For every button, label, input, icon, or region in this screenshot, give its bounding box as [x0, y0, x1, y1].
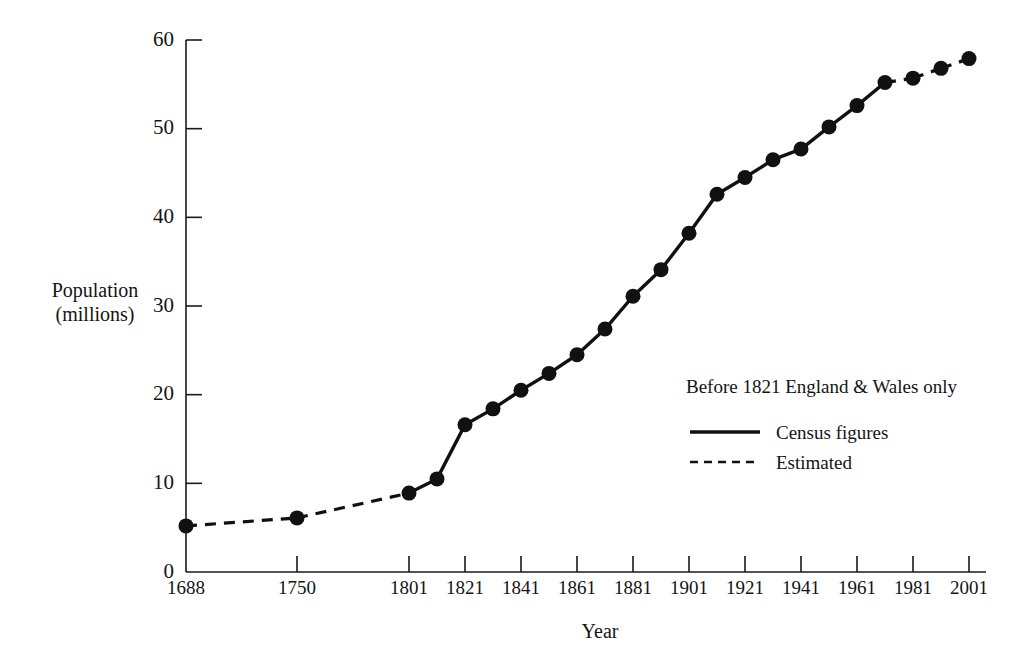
y-axis-title-line-2: (millions)	[56, 303, 135, 326]
data-point-marker	[682, 226, 697, 241]
x-tick-label: 2001	[950, 577, 988, 598]
y-tick-label: 60	[153, 27, 174, 51]
legend-label-estimated: Estimated	[776, 452, 852, 473]
x-tick-label: 1821	[446, 577, 484, 598]
data-point-marker	[710, 187, 725, 202]
series-segment-dashed	[297, 493, 409, 518]
series-marker-group	[179, 51, 977, 533]
chart-legend: Before 1821 England & Wales only Census …	[686, 376, 957, 473]
data-point-marker	[766, 152, 781, 167]
data-point-marker	[626, 289, 641, 304]
data-point-marker	[906, 71, 921, 86]
data-point-marker	[570, 347, 585, 362]
x-tick-label: 1981	[894, 577, 932, 598]
legend-annotation: Before 1821 England & Wales only	[686, 376, 957, 397]
x-tick-label: 1841	[502, 577, 540, 598]
data-point-marker	[738, 170, 753, 185]
data-point-marker	[794, 142, 809, 157]
data-point-marker	[654, 262, 669, 277]
data-point-marker	[934, 61, 949, 76]
x-tick-label: 1901	[670, 577, 708, 598]
axes	[186, 40, 986, 572]
data-point-marker	[598, 322, 613, 337]
data-point-marker	[822, 119, 837, 134]
x-tick-label: 1881	[614, 577, 652, 598]
x-tick-label: 1861	[558, 577, 596, 598]
x-axis-ticks: 1688175018011821184118611881190119211941…	[167, 556, 988, 598]
y-tick-label: 50	[153, 115, 174, 139]
data-point-marker	[402, 486, 417, 501]
x-tick-label: 1941	[782, 577, 820, 598]
x-tick-label: 1921	[726, 577, 764, 598]
data-point-marker	[850, 98, 865, 113]
y-axis-title-line-1: Population	[52, 279, 139, 302]
y-axis-title: Population (millions)	[52, 279, 139, 326]
data-point-marker	[290, 510, 305, 525]
series-segment-dashed	[186, 518, 297, 526]
x-tick-label: 1961	[838, 577, 876, 598]
chart-svg: 0102030405060 16881750180118211841186118…	[0, 0, 1036, 664]
data-point-marker	[542, 366, 557, 381]
x-tick-label: 1801	[390, 577, 428, 598]
series-segment-solid	[437, 425, 465, 479]
data-point-marker	[962, 51, 977, 66]
legend-label-census: Census figures	[776, 422, 888, 443]
data-point-marker	[878, 75, 893, 90]
y-tick-label: 40	[153, 204, 174, 228]
x-tick-label: 1688	[167, 577, 205, 598]
y-tick-label: 30	[153, 293, 174, 317]
data-point-marker	[458, 417, 473, 432]
x-axis-title: Year	[582, 620, 619, 642]
data-point-marker	[430, 471, 445, 486]
data-point-marker	[179, 518, 194, 533]
y-axis-ticks: 0102030405060	[153, 27, 202, 583]
data-point-marker	[486, 401, 501, 416]
data-point-marker	[514, 383, 529, 398]
y-tick-label: 20	[153, 381, 174, 405]
x-tick-label: 1750	[278, 577, 316, 598]
y-tick-label: 10	[153, 470, 174, 494]
population-line-chart: 0102030405060 16881750180118211841186118…	[0, 0, 1036, 664]
